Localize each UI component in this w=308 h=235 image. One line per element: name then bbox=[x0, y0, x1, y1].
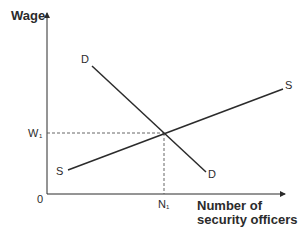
supply-label-right: S bbox=[285, 79, 292, 91]
svg-text:1: 1 bbox=[39, 133, 43, 139]
svg-text:W: W bbox=[28, 127, 39, 139]
svg-text:1: 1 bbox=[166, 204, 170, 210]
y-axis-label: Wage bbox=[11, 8, 45, 23]
x-axis-label-line1: Number of bbox=[197, 198, 263, 213]
supply-label-left: S bbox=[56, 165, 63, 177]
x-axis-label-line2: security officers bbox=[197, 212, 297, 227]
wage-diagram: Wage Number of security officers 0 W 1 N… bbox=[0, 0, 308, 235]
demand-label-top: D bbox=[81, 53, 89, 65]
w1-label: W 1 bbox=[28, 127, 43, 139]
demand-label-bottom: D bbox=[208, 168, 216, 180]
origin-label: 0 bbox=[37, 193, 43, 205]
svg-text:N: N bbox=[158, 198, 166, 210]
n1-label: N 1 bbox=[158, 198, 170, 210]
demand-curve bbox=[92, 66, 206, 172]
supply-curve bbox=[68, 89, 283, 170]
